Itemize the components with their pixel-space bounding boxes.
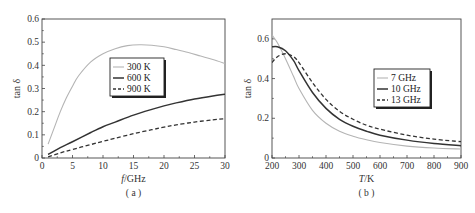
x-tick-label: 15 <box>129 161 139 171</box>
x-tick-label: 900 <box>454 161 469 171</box>
legend-label: 300 K <box>127 62 151 72</box>
chart-a: 05101520253000.10.20.30.40.50.6tan δf/GH… <box>11 14 230 199</box>
legend-label: 10 GHz <box>391 84 421 94</box>
series-line <box>272 54 461 142</box>
x-tick-label: 300 <box>292 161 307 171</box>
y-tick-label: 0.4 <box>257 74 269 84</box>
y-axis-title: tan δ <box>11 79 22 99</box>
x-tick-label: 700 <box>400 161 415 171</box>
y-tick-label: 0.6 <box>257 34 269 44</box>
x-tick-label: 500 <box>346 161 361 171</box>
x-tick-label: 0 <box>40 161 45 171</box>
legend-label: 7 GHz <box>391 73 416 83</box>
x-tick-label: 800 <box>427 161 442 171</box>
y-tick-label: 0 <box>34 153 39 163</box>
x-axis-title: f/GHz <box>121 173 146 184</box>
legend-label: 13 GHz <box>391 95 421 105</box>
y-tick-label: 0.4 <box>27 61 39 71</box>
legend: 7 GHz10 GHz13 GHz <box>374 69 432 109</box>
y-tick-label: 0.3 <box>27 84 39 94</box>
y-tick-label: 0.1 <box>27 130 39 140</box>
subfigure-caption: ( b ) <box>359 188 375 199</box>
x-tick-label: 600 <box>373 161 388 171</box>
plot-frame <box>272 19 461 158</box>
series-line <box>48 94 225 154</box>
figure: 05101520253000.10.20.30.40.50.6tan δf/GH… <box>0 0 475 213</box>
series-line <box>48 119 225 157</box>
x-tick-label: 25 <box>190 161 200 171</box>
chart-b: 20030040050060070080090000.20.40.6tan δT… <box>242 19 468 199</box>
y-tick-label: 0.2 <box>27 107 39 117</box>
y-tick-label: 0.5 <box>27 37 39 47</box>
x-axis-title: T/K <box>359 173 375 184</box>
x-tick-label: 400 <box>319 161 334 171</box>
x-tick-label: 5 <box>70 161 75 171</box>
y-tick-label: 0.6 <box>27 14 39 24</box>
x-tick-label: 10 <box>98 161 108 171</box>
y-axis-title: tan δ <box>242 79 253 99</box>
y-tick-label: 0.2 <box>257 113 269 123</box>
x-tick-label: 30 <box>220 161 230 171</box>
legend-label: 900 K <box>127 84 151 94</box>
y-tick-label: 0 <box>264 153 269 163</box>
series-line <box>272 47 461 146</box>
legend: 300 K600 K900 K <box>110 58 166 98</box>
subfigure-caption: ( a ) <box>126 188 141 199</box>
x-tick-label: 20 <box>159 161 169 171</box>
legend-label: 600 K <box>127 73 151 83</box>
